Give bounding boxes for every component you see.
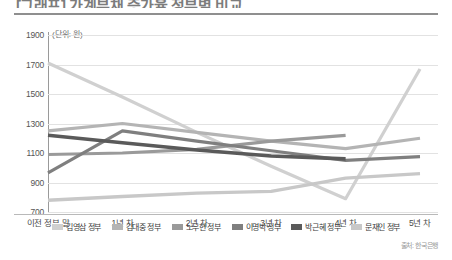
- legend-swatch-icon: [232, 224, 243, 230]
- legend-label: 이명박 정부: [246, 221, 281, 232]
- chart-container: (단위: 원) 19001700150013001100900700 이전 정부…: [0, 18, 452, 218]
- legend-item[interactable]: 노무현 정부: [172, 221, 221, 232]
- legend-label: 문재인 정부: [365, 221, 400, 232]
- header-divider: [14, 13, 438, 15]
- page-title: [그래프] 가계부채 증가율 정부별 비교: [16, 0, 242, 8]
- legend-swatch-icon: [351, 224, 362, 230]
- chart-legend: 김영삼 정부김대중 정부노무현 정부이명박 정부박근혜 정부문재인 정부: [0, 221, 452, 232]
- source-note: 출처: 한국은행: [401, 240, 439, 250]
- legend-swatch-icon: [112, 224, 123, 230]
- footer-divider: [14, 214, 438, 215]
- legend-item[interactable]: 김대중 정부: [112, 221, 161, 232]
- legend-swatch-icon: [52, 224, 63, 230]
- chart-plot: [0, 18, 452, 218]
- legend-item[interactable]: 이명박 정부: [232, 221, 281, 232]
- series-line: [48, 174, 420, 201]
- legend-swatch-icon: [291, 224, 302, 230]
- legend-label: 노무현 정부: [186, 221, 221, 232]
- legend-item[interactable]: 김영삼 정부: [52, 221, 101, 232]
- legend-label: 박근혜 정부: [305, 221, 340, 232]
- legend-label: 김영삼 정부: [66, 221, 101, 232]
- legend-item[interactable]: 박근혜 정부: [291, 221, 340, 232]
- legend-label: 김대중 정부: [126, 221, 161, 232]
- legend-item[interactable]: 문재인 정부: [351, 221, 400, 232]
- legend-swatch-icon: [172, 224, 183, 230]
